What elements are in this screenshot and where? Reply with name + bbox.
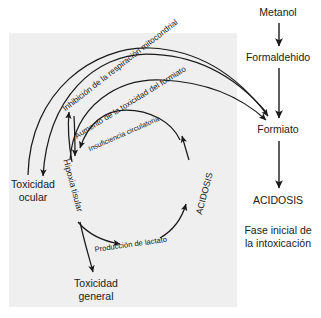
pathway-step-formiato: Formiato xyxy=(235,123,321,136)
pathway-step-formaldehido: Formaldehido xyxy=(235,51,321,64)
node-toxicidad-general: Toxicidad general xyxy=(58,277,134,302)
pathway-step-acidosis: ACIDOSIS xyxy=(235,194,321,207)
pathway-step-metanol: Metanol xyxy=(235,6,321,19)
diagram-arrows-layer xyxy=(0,0,321,318)
arc-inhibicion-respiracion xyxy=(28,48,268,175)
arc-produccion-lactato xyxy=(78,204,186,244)
arrow-hipoxia-to-aumento xyxy=(68,112,72,162)
pathway-caption: Fase inicial de la intoxicación xyxy=(235,224,321,250)
node-toxicidad-ocular: Toxicidad ocular xyxy=(2,178,64,203)
methanol-toxicity-diagram: Inhibición de la respiración mitocondria… xyxy=(0,0,321,318)
arrow-acidosis-to-insuficiencia xyxy=(182,136,189,160)
